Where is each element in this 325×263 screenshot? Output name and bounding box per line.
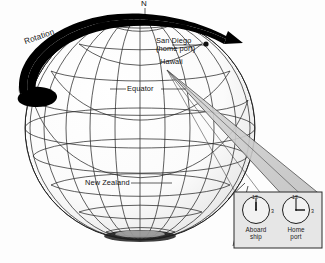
- aboard-ship-three-numeral: 3: [271, 207, 274, 215]
- north-pole-label: N: [141, 0, 147, 8]
- san-diego-label-group: San Diego (home port): [156, 37, 195, 54]
- new-zealand-label: New Zealand: [85, 179, 130, 187]
- globe-time-diagram: N Rotation Equator San Diego (home port)…: [0, 0, 325, 263]
- hawaii-label: Hawaii: [160, 58, 183, 66]
- home-port-caption-line1: Home: [278, 226, 314, 233]
- aboard-ship-caption: Aboard ship: [238, 226, 274, 240]
- equator-label: Equator: [127, 85, 154, 93]
- aboard-ship-twelve-numeral: 12: [252, 193, 258, 201]
- aboard-ship-caption-line1: Aboard: [238, 226, 274, 233]
- home-port-three-numeral: 3: [311, 207, 314, 215]
- home-port-twelve-numeral: 12: [292, 193, 298, 201]
- home-port-caption-line2: port: [278, 233, 314, 240]
- aboard-ship-caption-line2: ship: [238, 233, 274, 240]
- san-diego-label-line2: (home port): [156, 45, 195, 53]
- home-port-caption: Home port: [278, 226, 314, 240]
